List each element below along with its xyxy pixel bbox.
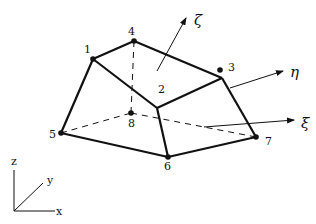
node-8-dot [128,110,134,116]
hexahedron-diagram: 1 2 3 4 5 6 7 8 ζ η ξ z y x [0,0,316,224]
edge-5-8 [61,113,131,133]
node-3-dot [217,67,223,73]
visible-edges [61,41,256,157]
y-axis-label: y [46,174,54,187]
node-4-dot [131,38,137,44]
node-label-7: 7 [265,135,272,148]
node-7-dot [253,134,259,140]
node-label-8: 8 [128,117,135,130]
node-label-5: 5 [49,128,56,141]
x-axis-label: x [56,205,63,218]
diagram-svg: 1 2 3 4 5 6 7 8 ζ η ξ z y x [0,0,316,224]
edge-4-8 [131,41,134,113]
local-axes [157,18,294,127]
edge-2-6 [157,108,168,157]
edge-8-7 [131,113,256,137]
node-label-3: 3 [228,61,235,74]
eta-axis-arrow [230,71,283,88]
node-dots [58,38,259,160]
edge-5-6 [61,133,168,157]
node-label-4: 4 [128,25,135,38]
node-label-2: 2 [158,83,165,96]
edge-6-7 [168,137,256,157]
eta-label: η [290,63,299,81]
edge-1-5 [61,59,93,133]
y-axis-line [14,183,43,211]
node-1-dot [90,56,96,62]
zeta-label: ζ [194,11,203,29]
edge-2-3 [157,78,222,108]
node-6-dot [165,154,171,160]
edge-1-2 [93,59,157,108]
edge-3-7 [222,78,256,137]
xi-label: ξ [301,114,310,132]
zeta-axis-arrow [157,18,186,71]
z-axis-label: z [11,155,17,168]
node-5-dot [58,130,64,136]
node-label-6: 6 [164,160,171,173]
node-label-1: 1 [84,43,91,56]
